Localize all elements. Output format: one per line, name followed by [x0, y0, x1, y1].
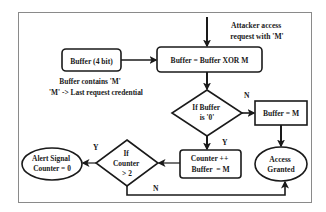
- input-annotation-line-2: request with 'M': [230, 32, 283, 41]
- xor-step-label: Buffer = Buffer XOR M: [171, 56, 249, 65]
- xor-step-node: Buffer = Buffer XOR M: [157, 47, 262, 72]
- buffer-set-label: Buffer = M: [263, 109, 299, 118]
- access-granted-node: Access Granted: [255, 147, 307, 181]
- counter-no-label: N: [153, 184, 159, 193]
- buffer-store-label: Buffer (4 bit): [70, 57, 113, 66]
- zero-yes-label: Y: [222, 138, 228, 147]
- buffer-store-node: Buffer (4 bit): [62, 49, 121, 71]
- alert-line-2: Counter = 0: [33, 164, 71, 173]
- zero-no-label: N: [244, 91, 250, 100]
- alert-line-1: Alert Signal: [32, 154, 70, 163]
- input-annotation-line-1: Attacker access: [231, 21, 281, 30]
- alert-node: Alert Signal Counter = 0: [22, 148, 82, 180]
- counter-check-line-3: > 2: [122, 169, 132, 178]
- alert-label: Alert Signal Counter = 0: [32, 154, 72, 173]
- counter-update-line-1: Counter ++: [191, 154, 228, 163]
- buffer-note-line-1: Buffer contains 'M': [59, 77, 120, 86]
- counter-yes-label: Y: [93, 143, 99, 152]
- buffer-set-node: Buffer = M: [255, 101, 307, 125]
- access-granted-line-1: Access: [269, 155, 291, 164]
- counter-update-node: Counter ++ Buffer = M: [180, 150, 241, 178]
- buffer-zero-check-line-1: If Buffer: [192, 103, 220, 112]
- counter-check-line-1: If: [123, 149, 129, 158]
- counter-update-line-2: Buffer = M: [191, 165, 229, 174]
- buffer-zero-check-line-2: is '0': [200, 113, 215, 122]
- access-granted-line-2: Granted: [267, 165, 295, 174]
- counter-check-line-2: Counter: [113, 159, 140, 168]
- flowchart-diagram: Attacker access request with 'M' Buffer …: [0, 0, 326, 212]
- access-granted-label: Access Granted: [267, 155, 295, 174]
- buffer-note-line-2: 'M' -> Last request credential: [49, 88, 143, 97]
